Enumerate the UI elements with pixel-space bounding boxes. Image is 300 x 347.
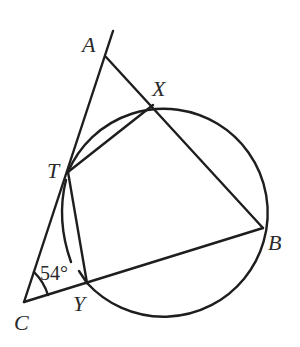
line-TX [68, 105, 153, 172]
label-A: A [80, 32, 96, 57]
label-C: C [14, 310, 29, 335]
angle-label-C: 54° [40, 262, 68, 284]
circle-left-arc [62, 180, 71, 262]
label-T: T [47, 158, 61, 183]
label-X: X [151, 76, 167, 101]
geometry-diagram: A X T B Y C 54° [0, 0, 300, 347]
line-TY [68, 172, 87, 283]
label-Y: Y [73, 291, 88, 316]
circle-main-arc [68, 109, 268, 317]
label-B: B [268, 230, 281, 255]
line-CA [24, 31, 113, 302]
diagram-canvas: A X T B Y C 54° [0, 0, 300, 347]
